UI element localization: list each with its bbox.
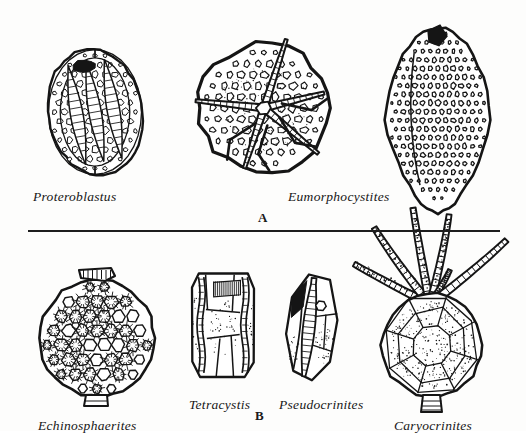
specimen-pseudocrinites: [286, 275, 337, 381]
specimen-label-tetracystis: Tetracystis: [189, 398, 250, 412]
specimen-tetracystis: [192, 274, 255, 378]
specimen-label-caryocrinites: Caryocrinites: [394, 419, 472, 433]
specimen-caryocrinites: [353, 208, 509, 413]
specimen-proteroblastus: [48, 49, 143, 175]
specimen-label-pseudocrinites: Pseudocrinites: [279, 398, 363, 412]
specimen-eumorphocystites-oral: [196, 39, 331, 173]
panel-divider-rule: [28, 230, 500, 232]
panel-letter-a: A: [258, 211, 267, 224]
specimen-echinosphaerites: [39, 268, 155, 406]
specimen-label-eumorphocystites: Eumorphocystites: [288, 190, 390, 204]
specimen-eumorphocystites-lateral: [385, 25, 491, 214]
specimen-label-echinosphaerites: Echinosphaerites: [38, 419, 137, 433]
panel-letter-b: B: [255, 409, 264, 422]
specimen-label-proteroblastus: Proteroblastus: [33, 190, 116, 204]
